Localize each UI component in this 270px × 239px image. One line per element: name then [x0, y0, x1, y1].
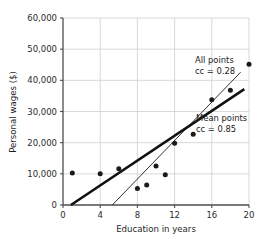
y-tick-label: 10,000: [27, 169, 57, 179]
data-point: [247, 62, 252, 67]
x-tick-labels: 048121620: [60, 205, 254, 220]
data-point: [98, 171, 103, 176]
x-tick-label: 20: [244, 210, 255, 220]
annotation-all-points-title: All points: [195, 55, 234, 65]
data-point: [209, 97, 214, 102]
x-tick-label: 16: [206, 210, 217, 220]
x-tick-label: 4: [97, 210, 102, 220]
y-tick-label: 30,000: [27, 107, 57, 117]
scatter-chart: 010,00020,00030,00040,00050,00060,000 04…: [0, 0, 270, 239]
data-point: [116, 166, 121, 171]
data-point: [154, 164, 159, 169]
data-point: [172, 141, 177, 146]
annotation-all-points: All points cc = 0.28: [195, 55, 235, 76]
y-tick-label: 60,000: [27, 13, 57, 23]
y-tick-label: 40,000: [27, 75, 57, 85]
y-tick-label: 50,000: [27, 44, 57, 54]
annotation-mean-points-cc: cc = 0.85: [196, 124, 236, 134]
data-point: [70, 170, 75, 175]
fit-lines: [71, 72, 244, 205]
data-point: [135, 186, 140, 191]
data-point: [228, 88, 233, 93]
fit-line-all-points: [112, 72, 240, 205]
y-tick-labels: 010,00020,00030,00040,00050,00060,000: [27, 13, 63, 210]
y-tick-label: 0: [52, 200, 57, 210]
data-point: [191, 132, 196, 137]
data-point: [163, 172, 168, 177]
x-axis-title: Education in years: [116, 224, 196, 234]
y-tick-label: 20,000: [27, 138, 57, 148]
annotation-mean-points: Mean points cc = 0.85: [196, 113, 247, 134]
x-tick-label: 12: [169, 210, 180, 220]
x-tick-label: 8: [135, 210, 140, 220]
data-point: [144, 183, 149, 188]
annotation-mean-points-title: Mean points: [196, 113, 247, 123]
grid-lines: [63, 18, 249, 205]
fit-line-mean-points: [71, 89, 244, 205]
y-axis-title: Personal wages ($): [8, 71, 18, 153]
chart-container: 010,00020,00030,00040,00050,00060,000 04…: [0, 0, 270, 239]
annotation-all-points-cc: cc = 0.28: [195, 66, 235, 76]
x-tick-label: 0: [60, 210, 65, 220]
